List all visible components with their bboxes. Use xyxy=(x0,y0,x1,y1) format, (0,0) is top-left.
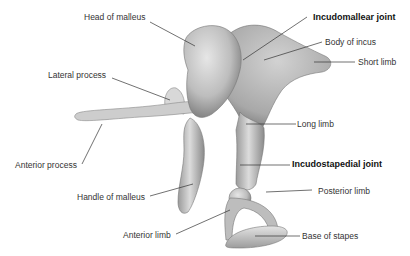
label-incudomallear-joint: Incudomallear joint xyxy=(313,12,396,22)
label-long-limb: Long limb xyxy=(297,119,334,129)
label-incudostapedial-joint: Incudostapedial joint xyxy=(292,159,382,169)
label-short-limb: Short limb xyxy=(358,57,396,67)
label-head-of-malleus: Head of malleus xyxy=(84,12,145,22)
label-anterior-limb: Anterior limb xyxy=(123,230,171,240)
label-body-of-incus: Body of incus xyxy=(325,37,376,47)
label-lateral-process: Lateral process xyxy=(48,70,106,80)
label-base-of-stapes: Base of stapes xyxy=(302,231,358,241)
ossicles-diagram: Head of malleus Incudomallear joint Body… xyxy=(0,0,410,256)
label-anterior-process: Anterior process xyxy=(15,160,77,170)
anterior-process-shape xyxy=(75,101,200,120)
label-posterior-limb: Posterior limb xyxy=(318,186,370,196)
stapes-base-shape xyxy=(226,226,288,248)
malleus-handle-shape xyxy=(178,118,204,213)
label-handle-of-malleus: Handle of malleus xyxy=(77,192,145,202)
